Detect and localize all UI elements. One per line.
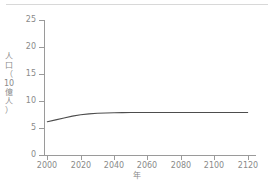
y-axis-label-char: 人	[3, 97, 15, 106]
series-layer	[0, 0, 274, 186]
y-axis-label: 人口（10億人）	[3, 52, 15, 115]
population-projection-chart: 0510152025 2000202020402060208021002120 …	[0, 0, 274, 186]
y-axis-label-char: 10	[3, 79, 15, 88]
y-axis-label-char: 人	[3, 52, 15, 61]
plot-area: 0510152025 2000202020402060208021002120 …	[0, 0, 274, 186]
y-axis-label-char: 口	[3, 61, 15, 70]
x-axis-label: 年	[0, 171, 274, 180]
population-line	[47, 112, 247, 121]
y-axis-label-char: ）	[3, 106, 15, 115]
y-axis-label-char: （	[3, 70, 15, 79]
y-axis-label-char: 億	[3, 88, 15, 97]
